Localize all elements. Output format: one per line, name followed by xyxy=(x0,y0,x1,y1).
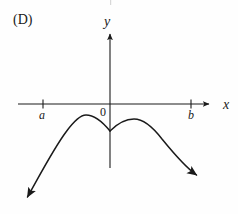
curve-right-arm xyxy=(110,119,197,175)
curve-left-arm xyxy=(28,115,111,197)
y-axis-label: y xyxy=(104,15,110,29)
tick-label-a: a xyxy=(39,109,45,121)
scan-artifact-mark xyxy=(110,0,111,5)
tick-label-b: b xyxy=(188,109,194,121)
figure-container: (D) y x a b 0 xyxy=(0,0,238,214)
graph-canvas xyxy=(0,0,238,214)
x-axis-label: x xyxy=(223,98,229,112)
origin-label: 0 xyxy=(100,106,106,118)
choice-label: (D) xyxy=(13,13,32,27)
